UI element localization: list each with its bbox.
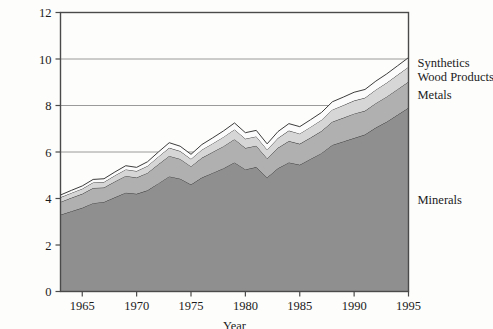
y-tick-label: 4 <box>45 192 52 206</box>
chart-canvas: 1965197019751980198519901995 024681012 S… <box>0 0 493 329</box>
series-label-synthetics: Synthetics <box>418 56 470 70</box>
y-tick-label: 12 <box>39 6 52 20</box>
stacked-area-chart: 1965197019751980198519901995 024681012 S… <box>0 0 493 329</box>
y-tick-label: 6 <box>45 146 51 160</box>
x-tick-label: 1970 <box>124 299 149 313</box>
x-tick-label: 1985 <box>287 299 312 313</box>
series-labels: SyntheticsWood ProductsMetalsMinerals <box>418 56 493 207</box>
y-axis-ticks <box>56 13 61 292</box>
y-tick-label: 2 <box>45 239 51 253</box>
x-axis-tick-labels: 1965197019751980198519901995 <box>70 299 421 313</box>
y-tick-label: 10 <box>39 53 52 67</box>
x-axis-ticks <box>82 292 408 297</box>
series-label-minerals: Minerals <box>418 193 463 207</box>
area-series-group <box>61 58 409 292</box>
series-label-wood-products: Wood Products <box>418 70 493 84</box>
x-tick-label: 1980 <box>233 299 258 313</box>
x-tick-label: 1990 <box>342 299 367 313</box>
y-axis-tick-labels: 024681012 <box>39 6 52 299</box>
series-label-metals: Metals <box>418 88 452 102</box>
y-tick-label: 0 <box>45 285 51 299</box>
x-axis-title-text: Year <box>223 319 247 329</box>
y-tick-label: 8 <box>45 99 51 113</box>
x-tick-label: 1975 <box>179 299 204 313</box>
x-axis-title: Year <box>223 319 247 329</box>
x-tick-label: 1965 <box>70 299 95 313</box>
x-tick-label: 1995 <box>396 299 421 313</box>
